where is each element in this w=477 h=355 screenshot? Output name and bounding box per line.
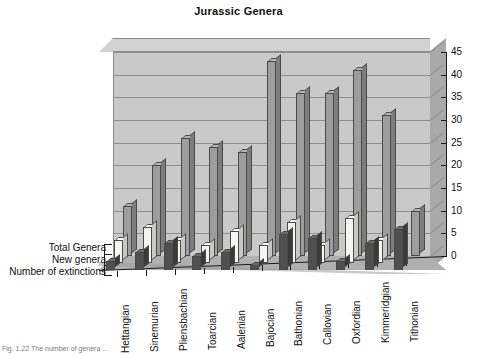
bar-toarcian-number-of-extinctions <box>192 256 201 270</box>
bar-front-face <box>164 243 173 270</box>
bar-kimmeridgian-number-of-extinctions <box>365 243 374 270</box>
bar-side-face <box>374 236 379 267</box>
bar-front-face <box>221 252 230 270</box>
y-axis-label-15: 15 <box>451 183 462 193</box>
bar-oxfordian-number-of-extinctions <box>336 261 345 270</box>
figure-caption: Fig. 1.22 The number of genera ... <box>2 344 475 353</box>
bar-side-face <box>334 86 339 253</box>
x-axis-label-oxfordian: Oxfordian <box>352 301 362 344</box>
bar-side-face <box>132 199 137 252</box>
x-tick-sinemurian <box>146 270 147 276</box>
y-axis-label-45: 45 <box>451 47 462 57</box>
y-tick-5 <box>441 233 447 234</box>
x-axis-label-bajocian: Bajocian <box>266 309 276 347</box>
bar-front-face <box>336 261 345 270</box>
bar-side-face <box>403 223 408 267</box>
bar-side-face <box>317 232 322 267</box>
y-tick-40 <box>441 75 447 76</box>
bar-bathonian-number-of-extinctions <box>279 234 288 270</box>
bar-side-face <box>123 234 128 260</box>
x-axis-label-pliensbachian: Pliensbachian <box>179 289 189 351</box>
y-axis-label-10: 10 <box>451 206 462 216</box>
y-axis-label-30: 30 <box>451 115 462 125</box>
bar-aalenian-number-of-extinctions <box>221 252 230 270</box>
x-axis-label-bathonian: Bathonian <box>294 301 304 346</box>
bar-bajocian-number-of-extinctions <box>250 265 259 270</box>
bar-side-face <box>276 54 281 253</box>
bar-front-face <box>250 265 259 270</box>
bar-side-face <box>161 159 166 253</box>
gridline-45 <box>113 52 430 53</box>
bar-side-face <box>420 204 425 253</box>
y-axis-label-0: 0 <box>451 251 457 261</box>
bar-side-face <box>288 227 293 267</box>
bar-side-face <box>230 245 235 267</box>
jurassic-genera-chart: Jurassic Genera 454035302520151050 Hetta… <box>0 0 477 355</box>
bar-side-face <box>239 225 244 260</box>
bar-tithonian-number-of-extinctions <box>394 229 403 270</box>
bar-front-face <box>394 229 403 270</box>
x-tick-bajocian <box>262 265 263 271</box>
y-tick-20 <box>441 165 447 166</box>
x-axis-label-aalenian: Aalenian <box>237 310 247 349</box>
bar-front-face <box>325 93 334 256</box>
bar-side-face <box>268 238 273 260</box>
bar-front-face <box>192 256 201 270</box>
bar-side-face <box>218 141 223 253</box>
bar-hettangian-number-of-extinctions <box>106 261 115 270</box>
bar-front-face <box>308 238 317 270</box>
bar-side-face <box>296 216 301 260</box>
bar-side-face <box>325 238 330 260</box>
x-tick-pliensbachian <box>175 269 176 275</box>
bar-front-face <box>135 252 144 270</box>
bar-side-face <box>173 236 178 267</box>
y-tick-45 <box>441 52 447 53</box>
bar-callovian-total-genera <box>325 93 334 256</box>
y-axis-line <box>446 52 447 256</box>
x-axis-label-callovian: Callovian <box>323 304 333 345</box>
bar-side-face <box>305 86 310 253</box>
bar-side-face <box>144 245 149 267</box>
legend-item-new-genera: New genera <box>0 254 106 266</box>
bar-front-face <box>365 243 374 270</box>
bar-callovian-number-of-extinctions <box>308 238 317 270</box>
bar-pliensbachian-number-of-extinctions <box>164 243 173 270</box>
y-tick-35 <box>441 97 447 98</box>
bar-side-face <box>190 131 195 252</box>
bar-side-face <box>383 234 388 260</box>
bar-side-face <box>354 211 359 260</box>
bar-tithonian-total-genera <box>411 211 420 256</box>
bar-side-face <box>247 145 252 253</box>
bar-front-face <box>267 61 276 256</box>
x-tick-hettangian <box>117 271 118 277</box>
x-axis-label-tithonian: Tithonian <box>410 301 420 342</box>
bar-front-face <box>411 211 420 256</box>
x-axis-label-kimmeridgian: Kimmeridgian <box>381 282 391 343</box>
y-axis-label-5: 5 <box>451 228 457 238</box>
x-tick-aalenian <box>233 267 234 273</box>
series-legend: Total Genera New genera Number of extinc… <box>0 242 106 278</box>
bar-side-face <box>152 220 157 260</box>
legend-item-number-of-extinctions: Number of extinctions <box>0 266 106 278</box>
bar-side-face <box>362 63 367 252</box>
y-tick-15 <box>441 188 447 189</box>
y-axis-label-20: 20 <box>451 160 462 170</box>
bar-side-face <box>210 238 215 260</box>
y-tick-30 <box>441 120 447 121</box>
bar-sinemurian-number-of-extinctions <box>135 252 144 270</box>
bar-side-face <box>181 234 186 260</box>
y-tick-10 <box>441 211 447 212</box>
legend-item-total-genera: Total Genera <box>0 242 106 254</box>
bar-front-face <box>279 234 288 270</box>
bar-front-face <box>106 261 115 270</box>
y-axis-label-40: 40 <box>451 70 462 80</box>
y-axis-label-35: 35 <box>451 92 462 102</box>
y-tick-25 <box>441 143 447 144</box>
bar-bajocian-total-genera <box>267 61 276 256</box>
x-tick-toarcian <box>204 268 205 274</box>
y-axis-label-25: 25 <box>451 138 462 148</box>
